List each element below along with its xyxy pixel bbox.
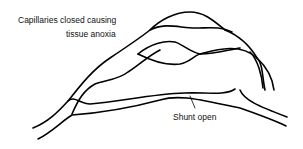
shunt-open-label: Shunt open bbox=[173, 112, 216, 122]
shunt-pointer-line bbox=[190, 96, 195, 108]
capillary-shunt-diagram: Capillaries closed causing tissue anoxia… bbox=[0, 0, 303, 149]
capillaries-closed-label: Capillaries closed causing bbox=[18, 15, 116, 25]
shunt-vessel-right-branch bbox=[240, 90, 287, 117]
capillary-middle-upper bbox=[138, 42, 240, 55]
shunt-vessel-lower-wall bbox=[38, 98, 286, 139]
arteriole-left-outer bbox=[68, 12, 225, 101]
capillary-top bbox=[150, 26, 232, 32]
arteriole-left-inner bbox=[72, 50, 160, 114]
capillary-middle-lower bbox=[138, 54, 200, 64]
tissue-anoxia-label: tissue anoxia bbox=[66, 29, 116, 39]
